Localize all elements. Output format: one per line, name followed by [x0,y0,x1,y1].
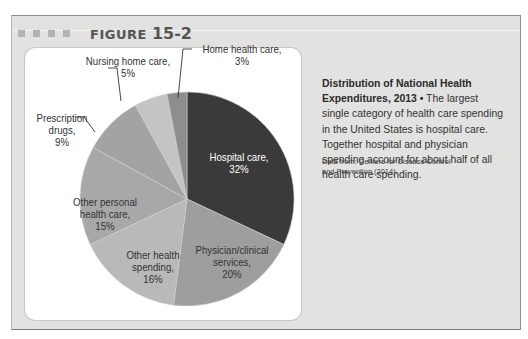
label-hospital: Hospital care, 32% [199,151,278,175]
leader-home-health [178,49,192,98]
label-prescription: Prescription drugs, 9% [36,112,88,148]
caption-bullet: • [420,92,424,104]
label-physician: Physician/clinical services, 20% [188,244,276,280]
label-other-health: Other health spending, 16% [121,249,185,285]
label-home-health: Home health care, 3% [198,43,286,67]
label-nursing: Nursing home care, 5% [84,55,172,79]
label-other-personal: Other personal health care, 15% [69,196,141,232]
data-source: Data from: Centers for Disease Control a… [322,157,462,177]
